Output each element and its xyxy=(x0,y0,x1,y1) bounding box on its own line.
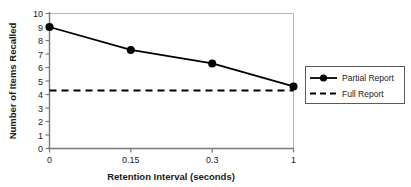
y-tick-label: 10 xyxy=(33,9,43,19)
y-tick-label: 3 xyxy=(38,104,43,114)
y-tick-label: 2 xyxy=(38,117,43,127)
plot-axes xyxy=(48,12,294,149)
legend-label-partial-report: Partial Report xyxy=(342,73,395,83)
y-tick-label: 0 xyxy=(38,144,43,154)
legend-item-partial-report[interactable]: Partial Report xyxy=(310,73,395,83)
x-tick-label: 1 xyxy=(291,155,296,165)
x-tick-label: 0.3 xyxy=(206,155,219,165)
legend-label-full-report: Full Report xyxy=(342,89,384,99)
y-tick-labels: 10 9 8 7 6 5 4 3 2 1 0 xyxy=(33,9,43,154)
x-tick-label: 0.15 xyxy=(122,155,140,165)
y-axis-title: Number of Items Recalled xyxy=(7,22,18,139)
chart-legend: Partial Report Full Report xyxy=(306,67,405,104)
y-tick-label: 1 xyxy=(38,131,43,141)
y-tick-label: 6 xyxy=(38,63,43,73)
data-point-marker xyxy=(46,23,54,31)
x-tick-label: 0 xyxy=(47,155,52,165)
y-tick-label: 4 xyxy=(38,90,43,100)
y-tick-label: 7 xyxy=(38,50,43,60)
x-tick-labels: 0 0.15 0.3 1 xyxy=(47,155,296,165)
series-partial-report-line xyxy=(50,27,294,86)
data-point-marker xyxy=(290,82,298,90)
legend-swatch-marker xyxy=(320,74,327,81)
line-chart: 10 9 8 7 6 5 4 3 2 1 0 0 0.15 0.3 1 xyxy=(0,0,411,187)
data-point-marker xyxy=(208,59,216,67)
y-tick-label: 8 xyxy=(38,36,43,46)
chart-figure: 10 9 8 7 6 5 4 3 2 1 0 0 0.15 0.3 1 xyxy=(0,0,411,187)
y-tick-label: 9 xyxy=(38,23,43,33)
y-tick-label: 5 xyxy=(38,77,43,87)
data-point-marker xyxy=(127,46,135,54)
x-axis-title: Retention Interval (seconds) xyxy=(107,171,235,182)
